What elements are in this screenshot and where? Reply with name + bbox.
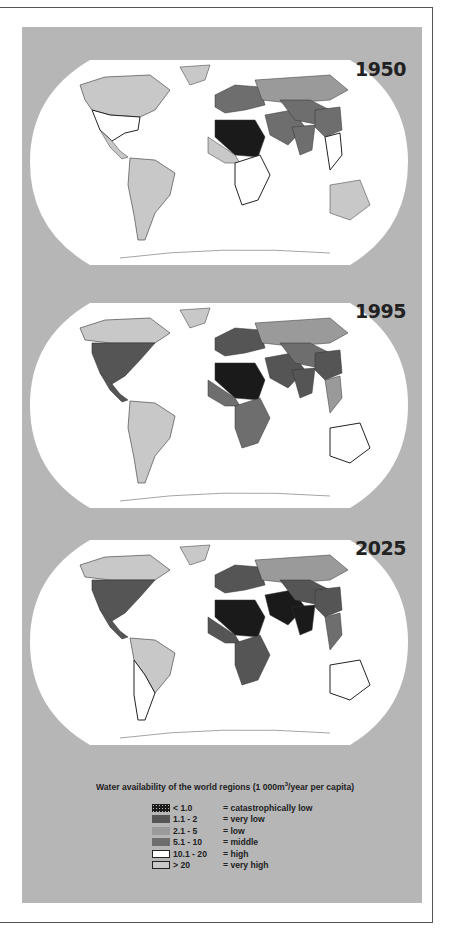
swatch-very-low [152, 815, 170, 823]
legend-label: = low [223, 826, 245, 836]
legend: < 1.0 = catastrophically low 1.1 - 2 = v… [152, 802, 382, 871]
legend-label: = middle [223, 837, 258, 847]
legend-range: > 20 [173, 860, 223, 870]
legend-item-high: 10.1 - 20 = high [152, 848, 382, 860]
swatch-catastrophically-low [152, 804, 170, 812]
world-map-2025 [30, 535, 408, 750]
frame-top-border [0, 7, 433, 8]
legend-item-very-high: > 20 = very high [152, 860, 382, 872]
swatch-very-high [152, 861, 170, 869]
legend-range: 2.1 - 5 [173, 826, 223, 836]
swatch-middle [152, 838, 170, 846]
world-map-1950 [30, 55, 408, 270]
legend-range: 5.1 - 10 [173, 837, 223, 847]
swatch-low [152, 827, 170, 835]
legend-title: Water availability of the world regions … [0, 781, 450, 792]
year-label-1995: 1995 [355, 300, 406, 322]
legend-item-catastrophically-low: < 1.0 = catastrophically low [152, 802, 382, 814]
legend-item-middle: 5.1 - 10 = middle [152, 837, 382, 849]
year-label-2025: 2025 [355, 537, 406, 559]
legend-range: 10.1 - 20 [173, 849, 223, 859]
legend-item-low: 2.1 - 5 = low [152, 825, 382, 837]
frame-bottom-border [0, 922, 433, 923]
year-label-1950: 1950 [355, 58, 406, 80]
legend-label: = very high [223, 860, 269, 870]
legend-range: 1.1 - 2 [173, 814, 223, 824]
legend-label: = catastrophically low [223, 803, 313, 813]
legend-label: = very low [223, 814, 265, 824]
swatch-high [152, 850, 170, 858]
legend-title-prefix: Water availability of the world regions … [96, 782, 285, 792]
legend-title-suffix: /year per capita) [288, 782, 354, 792]
world-map-1995 [30, 298, 408, 513]
legend-item-very-low: 1.1 - 2 = very low [152, 814, 382, 826]
legend-label: = high [223, 849, 249, 859]
legend-range: < 1.0 [173, 803, 223, 813]
